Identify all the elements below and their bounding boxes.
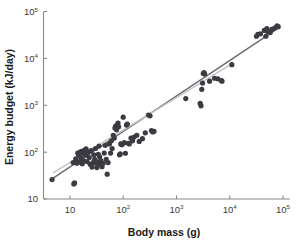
data-point: [105, 160, 110, 165]
data-point: [91, 152, 96, 157]
x-tick-label-1: 102: [116, 203, 131, 214]
y-tick-label-4: 105: [24, 6, 39, 17]
data-point: [72, 180, 77, 185]
y-tick-label-3: 104: [24, 52, 39, 63]
data-point: [118, 151, 123, 156]
data-point: [121, 115, 126, 120]
data-point: [102, 150, 107, 155]
data-point: [202, 71, 207, 76]
axes: [44, 12, 291, 200]
data-point: [183, 96, 188, 101]
y-tick-label-2: 103: [24, 99, 39, 110]
data-point: [229, 62, 234, 67]
chart-figure: 1010210310410510102103104105 Body mass (…: [0, 0, 296, 242]
data-point: [134, 133, 139, 138]
x-tick-label-3: 104: [223, 203, 238, 214]
data-point: [125, 121, 130, 126]
data-point: [87, 155, 92, 160]
data-point: [263, 34, 268, 39]
data-point: [96, 144, 101, 149]
x-tick-label-2: 103: [169, 203, 184, 214]
x-tick-label-4: 105: [276, 203, 291, 214]
data-point: [108, 150, 113, 155]
data-point: [219, 79, 224, 84]
x-axis-title: Body mass (g): [128, 226, 200, 238]
data-point: [143, 130, 148, 135]
y-axis-title: Energy budget (kJ/day): [3, 49, 15, 165]
y-tick-label-1: 102: [24, 146, 39, 157]
data-point: [123, 151, 128, 156]
x-tick-label-0: 10: [65, 204, 76, 215]
data-point: [198, 103, 203, 108]
data-point: [110, 146, 115, 151]
data-point: [199, 87, 204, 92]
y-tick-label-0: 10: [27, 193, 38, 204]
data-point: [105, 172, 110, 177]
data-point: [147, 113, 152, 118]
scatter-plot: 1010210310410510102103104105 Body mass (…: [0, 0, 296, 242]
data-point: [49, 177, 54, 182]
data-point: [200, 80, 205, 85]
data-point: [276, 24, 281, 29]
data-point: [89, 165, 94, 170]
data-point: [116, 124, 121, 129]
data-point: [140, 136, 145, 141]
data-point: [151, 129, 156, 134]
data-point: [207, 79, 212, 84]
data-point: [112, 136, 117, 141]
